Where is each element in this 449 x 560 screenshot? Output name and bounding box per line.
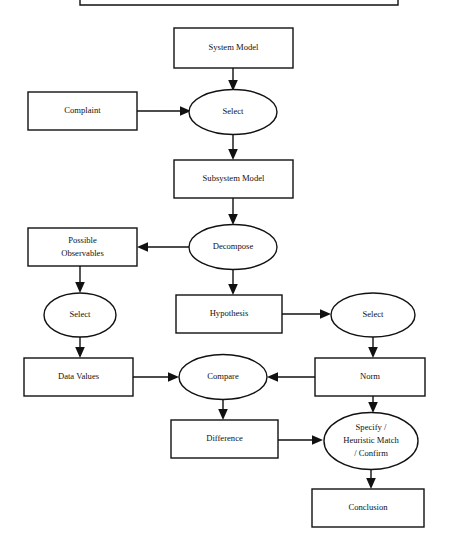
edge-select-3-to-norm (368, 337, 378, 358)
edge-system-model-to-select-1 (228, 68, 238, 91)
node-decompose[interactable]: Decompose (189, 225, 277, 270)
node-specify-heuristic-match-confirm[interactable]: Specify / Heuristic Match / Confirm (324, 413, 418, 470)
node-specify-label-line3: / Confirm (354, 448, 388, 458)
node-specify-label-line2: Heuristic Match (343, 435, 399, 445)
node-possible-observables-label-line1: Possible (68, 235, 97, 245)
node-select-2[interactable]: Select (44, 293, 116, 337)
node-subsystem-model-label: Subsystem Model (203, 173, 265, 183)
node-possible-observables[interactable]: Possible Observables (28, 228, 137, 266)
node-difference-label: Difference (206, 433, 243, 443)
node-system-model[interactable]: System Model (174, 28, 293, 68)
node-select-1-label: Select (223, 106, 245, 116)
node-select-1[interactable]: Select (189, 90, 277, 135)
node-compare-label: Compare (207, 371, 239, 381)
node-norm-label: Norm (360, 371, 380, 381)
node-conclusion-label: Conclusion (348, 502, 388, 512)
node-select-3[interactable]: Select (331, 293, 415, 337)
edge-hypothesis-to-select-3 (282, 309, 331, 319)
node-difference[interactable]: Difference (171, 420, 278, 458)
edge-specify-to-conclusion (366, 469, 376, 489)
edge-select-1-to-subsystem-model (228, 134, 238, 160)
node-decompose-label: Decompose (213, 241, 254, 251)
edge-data-values-to-compare (133, 372, 179, 382)
edge-norm-to-compare (267, 372, 315, 382)
edge-norm-to-specify (368, 396, 378, 413)
node-possible-observables-label-line2: Observables (61, 248, 104, 258)
edge-decompose-to-possible-observables (137, 242, 189, 252)
node-complaint[interactable]: Complaint (28, 92, 137, 130)
node-system-model-label: System Model (209, 42, 260, 52)
node-subsystem-model[interactable]: Subsystem Model (174, 160, 293, 198)
edge-compare-to-difference (218, 400, 228, 420)
node-conclusion[interactable]: Conclusion (312, 489, 424, 527)
flowchart-canvas: System Model Complaint Select Subsystem … (0, 0, 449, 560)
edge-select-2-to-data-values (75, 337, 85, 358)
edge-difference-to-specify (278, 435, 323, 445)
node-specify-label-line1: Specify / (356, 422, 387, 432)
node-norm[interactable]: Norm (315, 358, 425, 396)
node-compare[interactable]: Compare (179, 355, 267, 400)
edge-subsystem-model-to-decompose (228, 198, 238, 225)
edge-decompose-to-hypothesis (228, 270, 238, 295)
edge-possible-observables-to-select-2 (75, 266, 85, 293)
node-complaint-label: Complaint (64, 105, 101, 115)
node-data-values[interactable]: Data Values (24, 358, 133, 396)
edge-complaint-to-select-1 (137, 106, 191, 116)
node-hypothesis[interactable]: Hypothesis (176, 295, 282, 333)
cropped-top-box (80, 0, 398, 5)
node-hypothesis-label: Hypothesis (210, 308, 249, 318)
node-data-values-label: Data Values (58, 371, 100, 381)
node-select-3-label: Select (363, 309, 385, 319)
node-select-2-label: Select (70, 309, 92, 319)
flowchart-svg: System Model Complaint Select Subsystem … (0, 0, 449, 560)
